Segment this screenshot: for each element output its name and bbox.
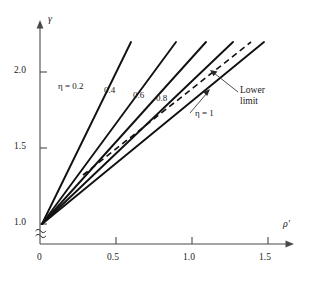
y-axis-label: γ	[48, 13, 52, 24]
y-axis-arrowhead	[37, 20, 44, 29]
x-tick-label-1-0: 1.0	[183, 252, 195, 263]
curve-label-eta-1: η = 1	[195, 108, 214, 118]
x-axis-label: ρ′	[283, 218, 290, 229]
x-tick-label-0: 0	[37, 252, 42, 263]
curve-eta-0-2	[42, 42, 131, 224]
x-tick-label-1-5: 1.5	[259, 252, 271, 263]
y-tick-label-1-5: 1.5	[14, 141, 26, 152]
y-tick-label-1-0: 1.0	[14, 217, 26, 228]
curve-label-eta-0-6: 0.6	[133, 90, 144, 100]
axis-break-symbol	[36, 229, 46, 237]
curve-label-eta-0-2: η = 0.2	[58, 81, 84, 91]
curve-eta-0-6	[42, 42, 206, 224]
curve-eta-1	[42, 42, 264, 224]
lower-limit-leader	[210, 70, 238, 92]
curve-eta-0-8	[42, 42, 233, 224]
y-tick-label-2-0: 2.0	[14, 65, 26, 76]
lower-limit-label-line2: limit	[240, 96, 258, 107]
chart-figure: γ ρ′ 2.0 1.5 1.0 0 0.5 1.0 1.5 η = 0.2 0…	[0, 0, 310, 282]
curve-label-eta-0-8: 0.8	[156, 93, 167, 103]
lower-limit-label-line1: Lower	[240, 85, 265, 96]
curve-eta-0-4	[42, 42, 176, 224]
curve-label-eta-0-4: 0.4	[104, 85, 115, 95]
x-axis-arrowhead	[286, 241, 295, 248]
x-tick-label-0-5: 0.5	[107, 252, 119, 263]
chart-plot-area	[0, 0, 310, 282]
curve-lower-limit-dashed	[83, 42, 251, 175]
